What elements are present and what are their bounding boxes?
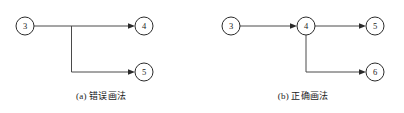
node-b-5-label: 5 — [373, 21, 377, 31]
arrowhead-b-into-node-6 — [359, 69, 366, 75]
node-b-3-label: 3 — [229, 21, 233, 31]
figure-root: 3 4 5 3 4 5 — [0, 0, 404, 113]
arrowhead-a-into-node-5 — [128, 69, 135, 75]
panel-a-incorrect: 3 4 5 — [16, 17, 153, 81]
node-a-5-label: 5 — [142, 67, 146, 77]
node-a-3-label: 3 — [23, 21, 27, 31]
edge-a-midbranch-to-5 — [72, 26, 133, 72]
panel-a-caption: (a) 错误画法 — [0, 89, 202, 102]
node-b-6-label: 6 — [373, 67, 377, 77]
panel-b-caption: (b) 正确画法 — [202, 89, 404, 102]
edge-b-4-to-6 — [306, 35, 363, 72]
arrowhead-b-into-node-4 — [290, 23, 297, 29]
arrowhead-b-into-node-5 — [359, 23, 366, 29]
panel-b-correct: 3 4 5 6 — [222, 17, 384, 81]
arrowhead-a-into-node-4 — [128, 23, 135, 29]
